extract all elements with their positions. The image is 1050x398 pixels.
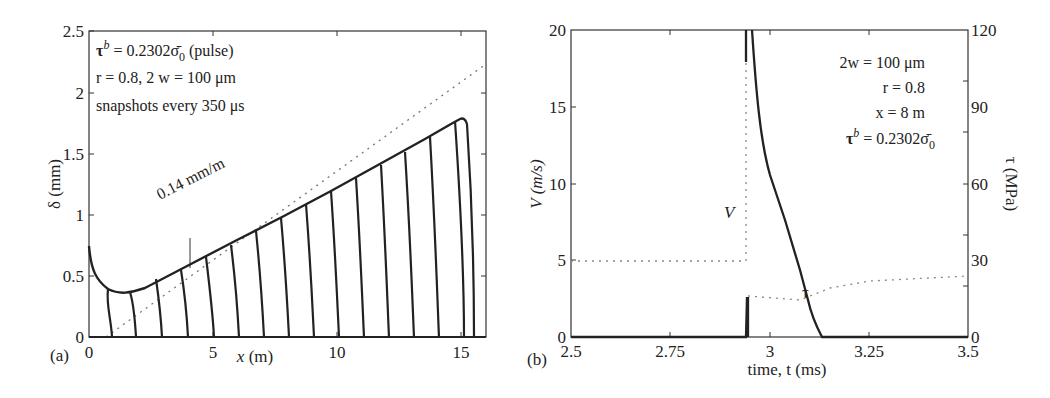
a-xlabel: x (m) bbox=[236, 347, 273, 366]
b-xtick: 3.5 bbox=[957, 342, 978, 361]
b-xlabel: time, t (ms) bbox=[748, 360, 827, 379]
b-ytick-right: 30 bbox=[971, 251, 988, 270]
b-ytick: 15 bbox=[549, 98, 566, 117]
panel-b: 0 5 10 15 20 0 30 60 90 120 2.5 2.75 3 3… bbox=[527, 21, 1021, 379]
a-ytick: 2 bbox=[76, 84, 85, 103]
a-xtick: 10 bbox=[329, 343, 346, 362]
b-xtick: 2.75 bbox=[655, 342, 685, 361]
b-annotation-x: x = 8 m bbox=[876, 104, 926, 121]
b-curve-label-tau: τ bbox=[802, 283, 809, 302]
a-xtick: 5 bbox=[209, 343, 218, 362]
b-xtick: 2.5 bbox=[560, 342, 581, 361]
figure: 0 0.5 1 1.5 2 2.5 0 5 10 15 x (m) δ (mm)… bbox=[0, 0, 1050, 398]
a-annotation-tau: τb = 0.2302σ̄0 (pulse) bbox=[96, 38, 233, 64]
b-ylabel-right: τ (MPa) bbox=[1002, 157, 1021, 212]
a-xtick: 0 bbox=[85, 343, 94, 362]
b-ytick: 20 bbox=[549, 21, 566, 40]
ticks-b bbox=[571, 30, 968, 337]
a-ylabel: δ (mm) bbox=[45, 159, 64, 209]
a-ytick: 0.5 bbox=[63, 267, 84, 286]
panel-label-b: (b) bbox=[527, 350, 547, 369]
b-ytick-right: 60 bbox=[971, 175, 988, 194]
b-curve-label-v: V bbox=[724, 203, 737, 222]
a-annotation-params: r = 0.8, 2 w = 100 μm bbox=[96, 69, 237, 87]
b-ylabel: V (m/s) bbox=[527, 159, 546, 209]
b-annotation-r: r = 0.8 bbox=[883, 79, 925, 96]
b-ytick: 10 bbox=[549, 175, 566, 194]
panel-label-a: (a) bbox=[50, 346, 69, 365]
a-ytick: 0 bbox=[76, 328, 85, 347]
a-xtick: 15 bbox=[453, 343, 470, 362]
b-ytick-right: 120 bbox=[971, 21, 997, 40]
a-snapshot-fronts bbox=[108, 121, 474, 337]
a-ytick: 1.5 bbox=[63, 145, 84, 164]
a-annotation-snapshots: snapshots every 350 μs bbox=[96, 97, 245, 115]
panel-a: 0 0.5 1 1.5 2 2.5 0 5 10 15 x (m) δ (mm)… bbox=[45, 22, 486, 366]
a-ytick: 1 bbox=[76, 206, 85, 225]
plot-frame-b bbox=[571, 30, 968, 337]
b-xtick: 3.25 bbox=[854, 342, 884, 361]
b-annotation-w: 2w = 100 μm bbox=[839, 54, 925, 72]
b-ytick-right: 90 bbox=[971, 98, 988, 117]
b-ytick: 5 bbox=[558, 251, 567, 270]
a-slope-label: 0.14 mm/m bbox=[154, 154, 228, 203]
b-velocity-curve bbox=[571, 30, 968, 337]
b-xtick: 3 bbox=[766, 342, 775, 361]
a-ytick: 2.5 bbox=[63, 22, 84, 41]
b-annotation-tau: τb = 0.2302σ̄0 bbox=[846, 126, 935, 152]
